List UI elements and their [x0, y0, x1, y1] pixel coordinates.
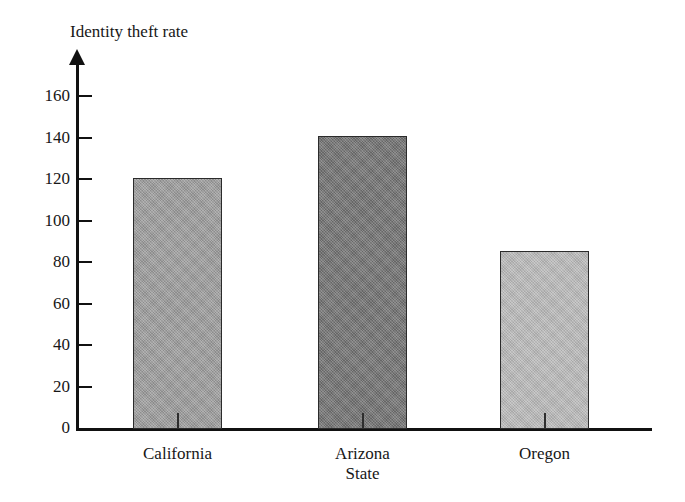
- chart-figure: Identity theft rate 02040608010012014016…: [0, 0, 685, 502]
- bar: [133, 178, 222, 429]
- bar: [500, 251, 589, 429]
- x-axis-category-label: Oregon: [465, 444, 625, 463]
- x-axis-tick: [177, 413, 179, 429]
- bar-series: [0, 0, 685, 429]
- x-axis-title: State: [283, 464, 443, 483]
- x-axis-tick: [544, 413, 546, 429]
- x-axis-tick: [362, 413, 364, 429]
- bar: [318, 136, 407, 429]
- x-axis-category-label: California: [98, 444, 258, 463]
- x-axis-category-label: Arizona: [283, 444, 443, 463]
